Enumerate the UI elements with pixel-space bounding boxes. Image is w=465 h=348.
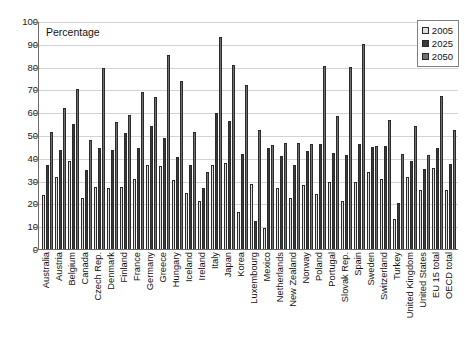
bar [42, 195, 45, 249]
bar [328, 182, 331, 249]
bar [232, 65, 235, 249]
bar [393, 219, 396, 249]
bar [111, 150, 114, 249]
bar-group [171, 22, 184, 249]
legend-item: 2005 [422, 24, 453, 37]
bar [163, 138, 166, 249]
x-axis-tick-label: Sweden [368, 252, 377, 286]
bar [401, 154, 404, 249]
legend-item: 2050 [422, 50, 453, 63]
legend-swatch-2050-icon [422, 53, 429, 60]
bar-group [366, 22, 379, 249]
bar [55, 177, 58, 250]
x-axis-tick-label: Portugal [329, 252, 338, 287]
bar [427, 155, 430, 249]
x-axis-tick: United States [418, 252, 431, 348]
x-axis-tick: Germany [144, 252, 157, 348]
y-axis-tick-mark [33, 90, 37, 91]
bar-group [158, 22, 171, 249]
y-axis-tick-mark [33, 159, 37, 160]
x-axis-tick: Ireland [196, 252, 209, 348]
x-axis-tick-label: Iceland [185, 252, 194, 282]
bar [345, 155, 348, 249]
x-axis-tick-label: Switzerland [381, 252, 390, 300]
x-axis-tick-label: Spain [355, 252, 364, 276]
x-axis-tick-label: Mexico [263, 252, 272, 281]
bar [367, 172, 370, 249]
x-axis-tick-label: Denmark [107, 252, 116, 290]
bar [375, 146, 378, 250]
bar [180, 81, 183, 249]
x-axis-tick: EU 15 total [431, 252, 444, 348]
plot-area [38, 22, 458, 250]
x-axis-tick: Austria [53, 252, 66, 348]
bar [46, 165, 49, 249]
x-axis-tick: Switzerland [379, 252, 392, 348]
x-axis-tick-label: OECD total [446, 252, 455, 299]
x-axis-tick: Korea [235, 252, 248, 348]
bar [146, 165, 149, 249]
bar [284, 143, 287, 249]
x-axis-tick: Japan [222, 252, 235, 348]
x-axis-tick-label: Australia [42, 252, 51, 288]
bar [107, 188, 110, 249]
bar [206, 172, 209, 249]
bar [276, 188, 279, 249]
x-axis-tick: United Kingdom [405, 252, 418, 348]
bar [219, 37, 222, 249]
x-axis-tick: Australia [40, 252, 53, 348]
y-axis-tick-mark [33, 182, 37, 183]
bar [436, 148, 439, 249]
bar [410, 161, 413, 249]
bar [50, 132, 53, 249]
bar [293, 165, 296, 249]
bar [354, 182, 357, 249]
x-axis-tick-label: Turkey [394, 252, 403, 280]
x-axis-tick-label: Poland [316, 252, 325, 281]
bar-group [145, 22, 158, 249]
bar [185, 193, 188, 249]
bar [388, 120, 391, 249]
bar [89, 140, 92, 249]
bar [271, 145, 274, 249]
x-axis-tick: New Zealand [288, 252, 301, 348]
x-axis-tick-label: Finland [120, 252, 129, 283]
bar [141, 92, 144, 249]
bar [406, 177, 409, 249]
bar [120, 187, 123, 249]
x-axis-tick-label: Netherlands [276, 252, 285, 302]
bar-group [301, 22, 314, 249]
bar [384, 146, 387, 249]
bar-group [327, 22, 340, 249]
bar [124, 133, 127, 249]
bar [453, 130, 456, 249]
bar-group [132, 22, 145, 249]
x-axis-tick-label: France [133, 252, 142, 281]
bar [397, 203, 400, 249]
bar [336, 116, 339, 249]
bar [224, 163, 227, 249]
x-axis-tick: Mexico [262, 252, 275, 348]
bar [419, 190, 422, 249]
x-axis-tick-label: Italy [211, 252, 220, 269]
x-axis-tick: Czech Rep. [92, 252, 105, 348]
bar [332, 153, 335, 249]
x-axis-tick-label: Korea [237, 252, 246, 277]
bar-group [392, 22, 405, 249]
bar-group [236, 22, 249, 249]
bar-group [340, 22, 353, 249]
bar [76, 89, 79, 249]
y-axis-tick-mark [33, 45, 37, 46]
legend-swatch-2005-icon [422, 27, 429, 34]
bar-group [93, 22, 106, 249]
x-axis-tick-label: Austria [55, 252, 64, 281]
bar [211, 165, 214, 249]
x-axis-tick-label: EU 15 total [433, 252, 442, 298]
x-axis-tick: Norway [301, 252, 314, 348]
bar [319, 144, 322, 249]
bar [228, 121, 231, 249]
bar-group [197, 22, 210, 249]
bar [193, 132, 196, 249]
bar [167, 55, 170, 249]
x-axis-tick: Sweden [366, 252, 379, 348]
